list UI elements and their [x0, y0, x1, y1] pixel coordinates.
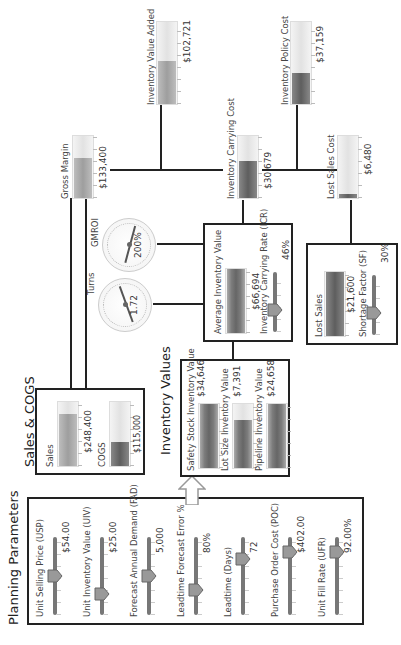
- slider-thumb[interactable]: [94, 587, 110, 601]
- parameter-slider[interactable]: [241, 537, 245, 615]
- parameter-value: $402.00: [296, 516, 306, 553]
- inventory-policy-cost-value: $37,159: [315, 26, 325, 63]
- parameter-value: 80%: [202, 533, 212, 553]
- planning-parameters-title: Planning Parameters: [6, 490, 21, 625]
- lost-sales-cost-thermometer: [337, 135, 359, 199]
- inventory-carrying-cost-thermometer: [237, 135, 259, 199]
- planning-parameters-panel: Unit Selling Price (USP)$54.00Unit Inven…: [27, 497, 364, 625]
- average-inventory-panel: Average Inventory Value $66,694 Inventor…: [203, 223, 293, 342]
- parameter-slider[interactable]: [53, 537, 57, 615]
- lost-sales-cost-label: Lost Sales Cost: [326, 135, 336, 199]
- average-inventory-label: Average Inventory Value: [213, 230, 223, 334]
- lost-sales-panel: Lost Sales $21,600 Shortage Factor (SF) …: [306, 243, 398, 345]
- gross-margin-thermometer: [72, 135, 94, 199]
- connector-line: [157, 243, 203, 245]
- gross-margin-label: Gross Margin: [60, 143, 70, 199]
- inventory-policy-cost-thermometer: [290, 21, 312, 105]
- gmroi-value: 200%: [133, 219, 143, 271]
- gross-margin-value: $133,400: [98, 146, 108, 189]
- slider-thumb[interactable]: [47, 570, 63, 584]
- lot-size-label: Lot Size Inventory Value: [220, 368, 230, 471]
- safety-stock-value: $34,646: [196, 360, 206, 397]
- lost-sales-thermometer: [324, 271, 346, 337]
- carrying-rate-value: 46%: [281, 240, 291, 260]
- parameter-label: Leadtime (Days): [223, 547, 233, 617]
- sales-value: $248,400: [83, 410, 93, 453]
- parameter-label: Unit Fill Rate (UFR): [317, 537, 327, 617]
- inventory-value-added-label: Inventory Value Added: [146, 9, 156, 105]
- parameter-slider[interactable]: [194, 537, 198, 615]
- parameter-slider[interactable]: [335, 537, 339, 615]
- shortage-factor-label: Shortage Factor (SF): [358, 250, 368, 337]
- parameter-label: Unit Inventory Value (UIV): [82, 506, 92, 617]
- carrying-rate-slider[interactable]: [273, 272, 277, 332]
- cogs-label: COGS: [97, 442, 107, 467]
- slider-thumb[interactable]: [141, 570, 157, 584]
- parameter-value: $25.00: [108, 522, 118, 554]
- sales-thermometer: [57, 401, 79, 467]
- parameter-label: Purchase Order Cost (POC): [270, 503, 280, 617]
- turns-label: Turns: [86, 273, 96, 295]
- parameter-slider[interactable]: [288, 537, 292, 615]
- sales-label: Sales: [45, 444, 55, 467]
- lot-size-value: $7,391: [232, 366, 242, 398]
- slider-thumb[interactable]: [235, 552, 251, 566]
- slider-thumb[interactable]: [267, 303, 283, 317]
- lost-sales-value: $21,600: [346, 276, 356, 313]
- parameter-label: Leadtime Forecast Error %: [176, 505, 186, 618]
- turns-gauge: 1.72: [98, 278, 152, 332]
- parameter-value: 5,000: [155, 527, 165, 553]
- inventory-value-added-thermometer: [156, 21, 178, 105]
- pipeline-label: Pipeline Inventory Value: [254, 368, 264, 471]
- average-inventory-thermometer: [225, 268, 247, 334]
- pipeline-value: $24,658: [266, 360, 276, 397]
- parameter-value: 72: [249, 542, 259, 553]
- lost-sales-label: Lost Sales: [314, 294, 324, 337]
- safety-stock-label: Safety Stock Inventory Value: [186, 348, 196, 471]
- lot-size-thermometer: [232, 403, 254, 469]
- connector-line: [350, 200, 352, 243]
- slider-thumb[interactable]: [188, 584, 204, 598]
- connector-line: [160, 101, 162, 171]
- inventory-values-title: Inventory Values: [158, 346, 173, 455]
- shortage-factor-value: 30%: [380, 243, 390, 263]
- lost-sales-cost-value: $6,480: [363, 144, 373, 176]
- parameter-slider[interactable]: [147, 537, 151, 615]
- connector-line: [296, 101, 298, 171]
- parameter-value: 92.00%: [343, 519, 353, 553]
- flow-arrow-icon: [178, 475, 206, 505]
- cogs-value: $115,000: [133, 415, 142, 453]
- connector-line: [242, 200, 244, 223]
- turns-value: 1.72: [129, 279, 139, 331]
- slider-thumb[interactable]: [366, 306, 382, 320]
- pipeline-thermometer: [266, 403, 288, 469]
- cogs-thermometer: [109, 401, 131, 467]
- inventory-values-panel: Safety Stock Inventory Value $34,646 Lot…: [180, 359, 290, 477]
- gmroi-gauge: 200%: [102, 218, 156, 272]
- inventory-policy-cost-label: Inventory Policy Cost: [280, 16, 290, 105]
- shortage-factor-slider[interactable]: [372, 275, 376, 335]
- safety-stock-thermometer: [198, 403, 220, 469]
- connector-line: [70, 198, 72, 388]
- connector-line: [110, 169, 223, 171]
- sales-cogs-panel: Sales $248,400 COGS $115,000: [35, 388, 145, 475]
- gmroi-label: GMROI: [90, 218, 100, 247]
- parameter-value: $54.00: [61, 522, 71, 554]
- inventory-value-added-value: $102,721: [182, 20, 192, 63]
- connector-line: [232, 342, 234, 359]
- parameter-label: Unit Selling Price (USP): [35, 519, 45, 617]
- inventory-carrying-cost-label: Inventory Carrying Cost: [226, 98, 236, 199]
- connector-line: [153, 303, 203, 305]
- parameter-label: Forecast Annual Demand (FAD): [129, 484, 139, 617]
- dashboard-canvas: Planning Parameters Unit Selling Price (…: [0, 0, 401, 645]
- parameter-slider[interactable]: [100, 537, 104, 615]
- connector-line: [85, 198, 87, 388]
